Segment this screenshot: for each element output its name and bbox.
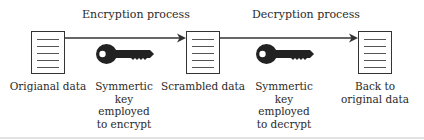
scrambled-data-document-icon	[186, 31, 220, 74]
original-data-document-icon	[31, 31, 65, 74]
scrambled-data-label: Scrambled data	[161, 80, 245, 93]
restored-data-document-icon	[358, 31, 392, 74]
key-icon	[96, 44, 154, 64]
encryption-process-title: Encryption process	[82, 8, 190, 21]
decryption-process-title: Decryption process	[252, 8, 360, 21]
encrypt-key-label: Symmertic key employed to encrypt	[95, 80, 153, 130]
bottom-divider	[0, 137, 424, 139]
decrypt-key-label: Symmertic key employed to decrypt	[255, 80, 313, 130]
key-icon	[256, 44, 314, 64]
original-data-label: Origianal data	[10, 80, 87, 93]
restored-data-label: Back to original data	[341, 80, 409, 105]
